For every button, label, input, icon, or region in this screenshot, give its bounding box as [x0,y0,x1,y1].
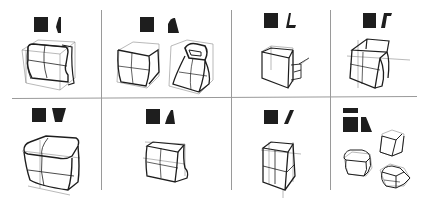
front-view-bar-glyph [343,108,358,113]
small-box-sketch-1 [344,150,372,176]
box-sketch [22,136,80,195]
front-view-glyph [146,109,160,124]
side-profile-glyph [286,13,296,28]
front-view-glyph [264,110,278,124]
side-profile-glyph [361,117,372,132]
front-view-glyph [32,108,46,122]
side-profile-glyph [284,110,294,124]
sketch-cell-r1c1: box with bulging side profile, wrapped b… [0,0,101,97]
sketch-cell-r1c4: box with overhanging top [330,0,425,97]
front-view-glyph [343,117,358,132]
sketch-cell-r2c1: large rounded box tapering downward [0,98,101,199]
front-view-glyph [34,17,48,32]
front-view-glyph [140,17,154,32]
box-sketch [261,46,309,88]
small-box-sketch-3 [380,164,410,188]
side-profile-glyph [381,13,392,28]
box-sketch [347,39,410,88]
side-profile-glyph [165,110,175,124]
sketch-cell-r2c2: box with flared lower back [101,98,231,199]
small-box-sketch-2 [380,130,404,156]
front-view-glyph [264,13,278,28]
side-profile-glyph [52,108,66,122]
box-sketch [261,142,301,198]
box-sketch [143,142,188,182]
front-view-glyph [363,13,376,28]
sketch-cell-r2c4: three small box variants [330,98,425,199]
box-sketch [22,40,75,90]
side-profile-glyph [168,18,179,33]
side-profile-glyph [56,17,61,33]
hooded-sketch [169,40,213,94]
sketch-cell-r2c3: slanted box with horizontal split [231,98,330,199]
sketch-cell-r1c2: rounded box and tapered hooded form [101,0,231,97]
box-sketch [117,42,159,88]
sketch-cell-r1c3: L-profile box with stepped base [231,0,330,97]
